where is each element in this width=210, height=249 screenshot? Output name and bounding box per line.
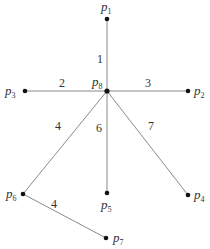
- edge-weight-p8-p1: 1: [97, 52, 103, 66]
- node-p8: [104, 88, 109, 93]
- node-label-p4: p4: [193, 187, 205, 204]
- edge-weight-p8-p3: 2: [59, 76, 65, 90]
- node-label-p7: p7: [112, 230, 124, 247]
- edge-weight-p8-p2: 3: [145, 76, 151, 90]
- node-label-p2: p2: [193, 83, 205, 100]
- node-p2: [186, 89, 191, 94]
- node-p3: [23, 89, 28, 94]
- node-labels: p1 p2 p3 p4 p5 p6 p7 p8: [4, 0, 205, 247]
- node-label-p6: p6: [5, 186, 17, 203]
- node-label-p3: p3: [4, 83, 16, 100]
- node-p1: [105, 17, 110, 22]
- node-label-p5: p5: [100, 197, 112, 214]
- edge-weight-p6-p7: 4: [51, 197, 57, 211]
- node-p5: [105, 191, 110, 196]
- edge-p6-p7: [23, 194, 106, 238]
- edge-p8-p4: [107, 91, 188, 195]
- edge-weight-p8-p5: 6: [96, 121, 102, 135]
- weighted-tree-diagram: 1 2 3 4 6 7 4 p1 p2: [0, 0, 210, 249]
- edge-weight-p8-p4: 7: [148, 119, 154, 133]
- node-p6: [21, 192, 26, 197]
- edge-weight-p8-p6: 4: [55, 119, 61, 133]
- edge-p8-p6: [23, 91, 107, 194]
- node-p7: [104, 236, 109, 241]
- node-p4: [186, 193, 191, 198]
- node-label-p1: p1: [100, 0, 112, 16]
- node-label-p8: p8: [91, 74, 103, 91]
